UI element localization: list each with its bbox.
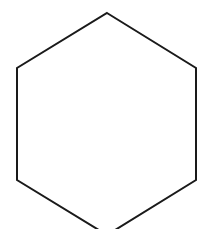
diagram-canvas	[0, 0, 203, 229]
hexagon-shape	[17, 13, 196, 229]
